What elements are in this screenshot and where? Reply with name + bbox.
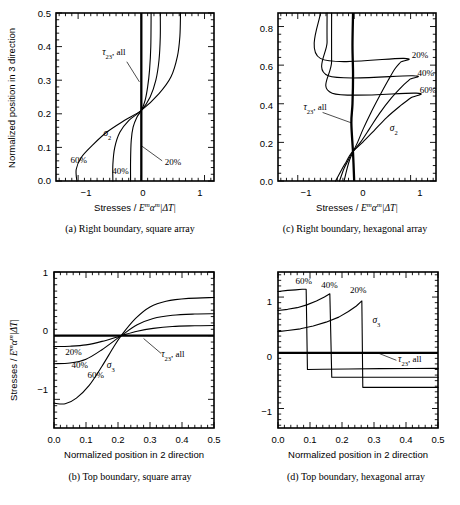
xtick-label: 0.3 xyxy=(143,434,156,445)
xtick-label: 0.3 xyxy=(367,434,380,445)
ytick-label: 0 xyxy=(267,351,272,362)
curve-annotation: σ3 xyxy=(372,315,380,328)
panel-a-xtick-labels: −1 0 1 xyxy=(81,187,203,198)
panel-b-xtick-labels: 0.0 0.1 0.2 0.3 0.4 0.5 xyxy=(47,434,220,445)
panel-d-xtick-labels: 0.0 0.1 0.2 0.3 0.4 0.5 xyxy=(271,434,444,445)
panel-a-caption: (a) Right boundary, square array xyxy=(65,223,195,235)
figure-container: Normalized position in 3 direction 0.5 0… xyxy=(0,0,460,505)
curve-annotation: 20% xyxy=(350,285,367,295)
xtick-label: 0.1 xyxy=(79,434,92,445)
xtick-label: 0 xyxy=(360,187,365,198)
curve-annotation: 40% xyxy=(417,68,434,78)
curve-annotation: 40% xyxy=(321,280,338,290)
panel-a-curves: τ23, allσ220%40%60% xyxy=(71,13,182,181)
series-curve xyxy=(113,13,161,181)
panel-c-ytick-labels: 0.8 0.6 0.4 0.2 0.0 xyxy=(260,23,273,187)
ytick-label: 1 xyxy=(43,267,48,278)
curve-annotation: τ23, all xyxy=(161,349,185,362)
curve-annotation: 20% xyxy=(165,157,182,167)
panel-c: 0.8 0.6 0.4 0.2 0.0 20%40%60%τ23, allσ2 … xyxy=(230,0,460,255)
xlabel-dt: |ΔT| xyxy=(382,203,398,213)
curve-annotation: τ23, all xyxy=(398,354,422,367)
ytick-label: 1 xyxy=(267,296,272,307)
curve-annotation: 20% xyxy=(65,347,82,357)
panel-b-ytick-labels: 1 0 −1 xyxy=(37,267,48,395)
ytick-label: 0.0 xyxy=(260,176,273,187)
panel-b-xlabel: Normalized position in 2 direction xyxy=(64,449,204,460)
ytick-label: 0.4 xyxy=(260,100,273,111)
xtick-label: 0 xyxy=(140,187,145,198)
panel-d: 1 0 −1 60%40%20%σ3τ23, all 0.0 0.1 0.2 0… xyxy=(230,255,460,505)
curve-annotation: 60% xyxy=(420,85,437,95)
panel-c-caption: (c) Right boundary, hexagonal array xyxy=(283,223,428,235)
xtick-label: 0.2 xyxy=(335,434,348,445)
curve-annotation: 60% xyxy=(88,370,105,380)
ytick-label: −1 xyxy=(261,406,272,417)
ytick-label: 0.0 xyxy=(38,175,51,186)
xlabel-lead: Stresses / xyxy=(94,202,139,213)
panel-d-plot-frame xyxy=(278,272,438,428)
annotation-leader xyxy=(323,112,352,123)
panel-c-svg: 0.8 0.6 0.4 0.2 0.0 20%40%60%τ23, allσ2 … xyxy=(230,0,460,255)
series-curve xyxy=(326,13,422,181)
panel-b-svg: Stresses / Emαm|ΔT| 1 0 −1 20%40%60%σ3τ2… xyxy=(0,255,230,505)
panel-b-ylabel: Stresses / Emαm|ΔT| xyxy=(7,319,19,401)
annotation-leader xyxy=(127,62,140,82)
ytick-label: 0.1 xyxy=(38,142,51,153)
panel-d-svg: 1 0 −1 60%40%20%σ3τ23, all 0.0 0.1 0.2 0… xyxy=(230,255,460,505)
xtick-label: 0.5 xyxy=(207,434,220,445)
series-curve xyxy=(278,301,438,387)
panel-a-svg: Normalized position in 3 direction 0.5 0… xyxy=(0,0,230,255)
xtick-label: 0.0 xyxy=(47,434,60,445)
xtick-label: 0.1 xyxy=(303,434,316,445)
panel-a: Normalized position in 3 direction 0.5 0… xyxy=(0,0,230,255)
ytick-label: 0.2 xyxy=(38,108,51,119)
xlabel-dt: |ΔT| xyxy=(160,203,176,213)
panel-a-ylabel: Normalized position in 3 direction xyxy=(6,28,17,168)
xtick-label: 1 xyxy=(417,187,422,198)
panel-b-curves: 20%40%60%σ3τ23, all xyxy=(54,297,214,404)
series-curve xyxy=(314,13,409,181)
annotation-leader xyxy=(141,146,162,161)
series-curve xyxy=(278,294,438,378)
ytick-label: 0.2 xyxy=(260,138,273,149)
curve-annotation: 40% xyxy=(72,360,89,370)
xtick-label: −1 xyxy=(81,187,92,198)
panel-b-caption: (b) Top boundary, square array xyxy=(68,471,191,483)
curve-annotation: 60% xyxy=(71,155,88,165)
panel-a-xlabel: Stresses / Emαm|ΔT| xyxy=(94,201,176,213)
ytick-label: 0.4 xyxy=(38,41,51,52)
curve-annotation: σ3 xyxy=(107,360,115,373)
annotation-leader xyxy=(144,339,162,354)
panel-d-xlabel: Normalized position in 2 direction xyxy=(288,449,428,460)
curve-annotation: σ2 xyxy=(390,123,398,136)
panel-d-ytick-labels: 1 0 −1 xyxy=(261,296,272,417)
ytick-label: 0 xyxy=(43,325,48,336)
xtick-label: 0.0 xyxy=(271,434,284,445)
xtick-label: 0.4 xyxy=(175,434,188,445)
curve-annotation: 20% xyxy=(412,50,429,60)
ytick-label: 0.5 xyxy=(38,8,51,19)
xtick-label: 0.5 xyxy=(431,434,444,445)
series-curve xyxy=(76,13,181,181)
panel-a-ytick-labels: 0.5 0.4 0.3 0.2 0.1 0.0 xyxy=(38,8,51,186)
ytick-label: 0.3 xyxy=(38,75,51,86)
panel-d-caption: (d) Top boundary, hexagonal array xyxy=(287,471,425,483)
curve-annotation: τ23, all xyxy=(102,47,126,60)
curve-annotation: τ23, all xyxy=(303,102,327,115)
panel-c-xtick-labels: −1 0 1 xyxy=(301,187,423,198)
panel-d-curves: 60%40%20%σ3τ23, all xyxy=(278,276,438,388)
series-curve xyxy=(322,13,419,181)
xlabel-lead: Stresses / xyxy=(316,202,361,213)
xtick-label: 0.4 xyxy=(399,434,412,445)
ytick-label: 0.6 xyxy=(260,61,273,72)
panel-b: Stresses / Emαm|ΔT| 1 0 −1 20%40%60%σ3τ2… xyxy=(0,255,230,505)
curve-annotation: 40% xyxy=(112,166,129,176)
panel-c-xlabel: Stresses / Emαm|ΔT| xyxy=(316,201,398,213)
ytick-label: −1 xyxy=(37,384,48,395)
xtick-label: −1 xyxy=(301,187,312,198)
curve-annotation: 60% xyxy=(296,276,313,286)
ylabel-lead: Stresses / xyxy=(8,356,19,401)
ylabel-dt: |ΔT| xyxy=(9,319,19,335)
panel-d-ticks xyxy=(278,272,438,428)
